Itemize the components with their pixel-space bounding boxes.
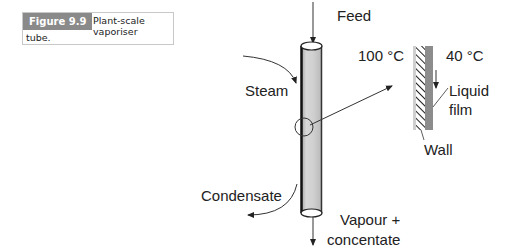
liquid-film-label: Liquid xyxy=(449,82,489,99)
wall-label: Wall xyxy=(424,141,453,158)
feed-label: Feed xyxy=(337,7,371,24)
condensate-label: Condensate xyxy=(201,187,282,204)
steam-arrow xyxy=(243,56,296,83)
liquid-film-label-continued: film xyxy=(449,101,472,118)
vapour-label: Vapour + xyxy=(340,211,400,228)
vaporiser-diagram: Feed Steam Condensate Vapour + concentat… xyxy=(0,0,525,252)
concentrate-label: concentate xyxy=(327,231,400,248)
wall-detail xyxy=(413,46,448,140)
cold-side-temperature: 40 °C xyxy=(446,47,484,64)
vaporiser-tube xyxy=(301,42,322,217)
hot-side-temperature: 100 °C xyxy=(358,47,404,64)
steam-label: Steam xyxy=(245,82,288,99)
